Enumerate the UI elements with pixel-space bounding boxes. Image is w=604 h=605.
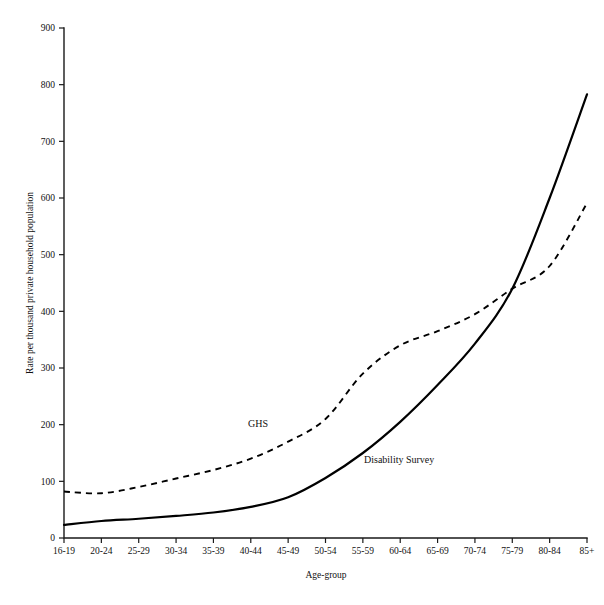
x-axis-ticks: 16-1920-2425-2930-3435-3940-4445-4950-54… <box>53 538 595 556</box>
y-tick-label: 500 <box>41 250 56 260</box>
plot-annotations: GHS Disability Survey <box>248 418 434 465</box>
y-tick-label: 700 <box>41 137 56 147</box>
x-tick-label: 55-59 <box>352 546 374 556</box>
x-tick-label: 20-24 <box>90 546 112 556</box>
x-tick-label: 85+ <box>580 546 595 556</box>
x-axis-title: Age-group <box>305 570 346 580</box>
y-tick-label: 100 <box>41 477 56 487</box>
y-axis-ticks: 0100200300400500600700800900 <box>41 23 64 543</box>
x-tick-label: 30-34 <box>165 546 187 556</box>
y-tick-label: 0 <box>50 533 55 543</box>
x-tick-label: 80-84 <box>539 546 561 556</box>
x-tick-label: 25-29 <box>128 546 150 556</box>
line-chart: 0100200300400500600700800900 16-1920-242… <box>0 0 604 605</box>
x-tick-label: 35-39 <box>202 546 224 556</box>
x-tick-label: 16-19 <box>53 546 75 556</box>
x-tick-label: 70-74 <box>464 546 486 556</box>
axis-lines <box>64 28 587 538</box>
y-tick-label: 600 <box>41 193 56 203</box>
y-axis-title: Rate per thousand private household popu… <box>25 192 35 374</box>
x-tick-label: 60-64 <box>389 546 411 556</box>
chart-figure: 0100200300400500600700800900 16-1920-242… <box>0 0 604 605</box>
series-label-disability-survey: Disability Survey <box>364 454 434 465</box>
x-tick-label: 40-44 <box>240 546 262 556</box>
series-label-ghs: GHS <box>248 418 268 429</box>
x-tick-label: 45-49 <box>277 546 299 556</box>
series-line-disability-survey <box>64 94 587 525</box>
x-tick-label: 75-79 <box>501 546 523 556</box>
y-tick-label: 300 <box>41 363 56 373</box>
x-tick-label: 50-54 <box>314 546 336 556</box>
y-tick-label: 900 <box>41 23 56 33</box>
series-line-ghs <box>64 203 587 493</box>
y-tick-label: 800 <box>41 80 56 90</box>
plot-series <box>64 94 587 525</box>
y-tick-label: 200 <box>41 420 56 430</box>
y-tick-label: 400 <box>41 307 56 317</box>
x-tick-label: 65-69 <box>426 546 448 556</box>
